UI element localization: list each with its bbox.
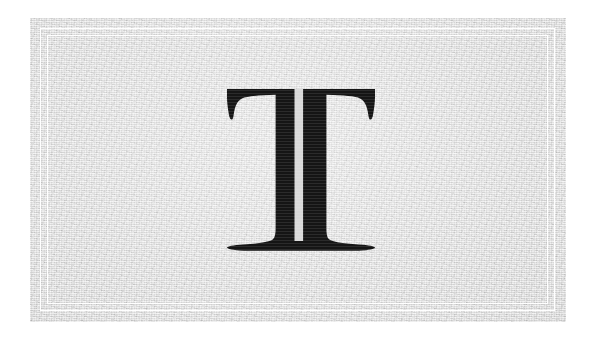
- surface-shading: [30, 18, 566, 322]
- letter-t-inline-stripe: [295, 89, 304, 241]
- border-rule-outer: [40, 28, 555, 311]
- ink-grain-overlay: [30, 18, 566, 322]
- letter-tile: [30, 18, 566, 322]
- letter-t-glyph: [30, 18, 566, 322]
- paper-grain-texture: [30, 18, 566, 322]
- border-rule-inner: [47, 35, 548, 304]
- stage: Decorative textured grey tile with a whi…: [0, 0, 596, 340]
- glyph-container: [30, 18, 566, 322]
- paper-grain-texture-2: [30, 18, 566, 322]
- letter-t-ink: [227, 89, 375, 251]
